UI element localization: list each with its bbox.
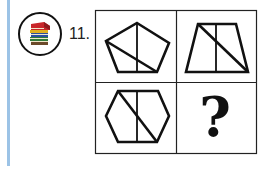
- hexagon-figure: [106, 91, 169, 142]
- pentagon-figure: [106, 23, 169, 72]
- trapezoid-figure: [186, 24, 248, 72]
- missing-figure-question-mark: ?: [198, 82, 232, 152]
